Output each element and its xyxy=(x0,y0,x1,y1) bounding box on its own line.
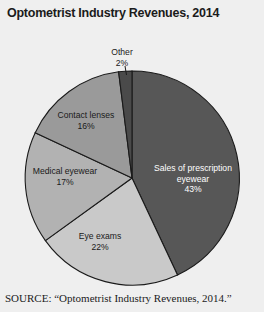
pie-label-eye-exams-name: Eye exams xyxy=(58,231,142,242)
pie-label-contact-lenses: Contact lenses 16% xyxy=(42,110,130,131)
chart-page: Optometrist Industry Revenues, 2014 Othe… xyxy=(0,0,264,312)
pie-label-eye-exams-value: 22% xyxy=(58,242,142,253)
pie-label-contact-lenses-name: Contact lenses xyxy=(42,110,130,121)
pie-label-medical-eyewear: Medical eyewear 17% xyxy=(18,166,112,187)
pie-label-contact-lenses-value: 16% xyxy=(42,121,130,132)
pie-chart: Other 2% Contact lenses 16% Medical eyew… xyxy=(0,0,264,290)
pie-label-other: Other 2% xyxy=(86,47,158,68)
pie-label-sales-value: 43% xyxy=(140,184,246,195)
pie-label-sales-of-prescription-eyewear: Sales of prescription eyewear 43% xyxy=(140,163,246,195)
pie-label-other-name: Other xyxy=(86,47,158,58)
pie-label-eye-exams: Eye exams 22% xyxy=(58,231,142,252)
source-note: SOURCE: “Optometrist Industry Revenues, … xyxy=(5,292,261,305)
pie-label-medical-eyewear-name: Medical eyewear xyxy=(18,166,112,177)
pie-label-sales-name-line1: Sales of prescription xyxy=(140,163,246,174)
pie-label-medical-eyewear-value: 17% xyxy=(18,177,112,188)
pie-label-sales-name-line2: eyewear xyxy=(140,174,246,185)
pie-label-other-value: 2% xyxy=(86,58,158,69)
